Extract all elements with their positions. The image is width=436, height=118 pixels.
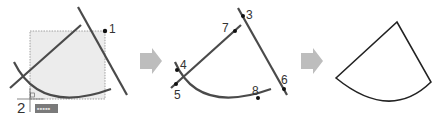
label-6: 6 [281, 73, 288, 87]
tooltip-text: ■■■■■ [37, 106, 51, 111]
label-4: 4 [180, 58, 187, 72]
label-8: 8 [252, 84, 259, 98]
right-arrow-icon [140, 48, 162, 74]
trim-workflow-diagram: 1 2 ■■■■■ 3 4 5 6 7 8 [0, 0, 436, 118]
step-3-panel [336, 22, 431, 101]
result-sector-shape [336, 22, 431, 101]
label-1: 1 [109, 22, 116, 36]
right-arrow-icon [301, 48, 323, 74]
point-6 [282, 87, 286, 91]
label-7: 7 [222, 21, 229, 35]
point-7 [233, 29, 237, 33]
label-3: 3 [246, 8, 253, 22]
label-5: 5 [174, 88, 181, 102]
selection-window [30, 31, 105, 99]
point-3 [241, 14, 245, 18]
step-1-panel: 1 2 ■■■■■ [10, 7, 127, 116]
step-2-panel: 3 4 5 6 7 8 [171, 8, 288, 102]
line-7-5 [171, 25, 241, 88]
point-5 [174, 82, 178, 86]
pick-point-1 [103, 29, 107, 33]
label-2: 2 [17, 99, 25, 116]
point-4 [175, 68, 179, 72]
